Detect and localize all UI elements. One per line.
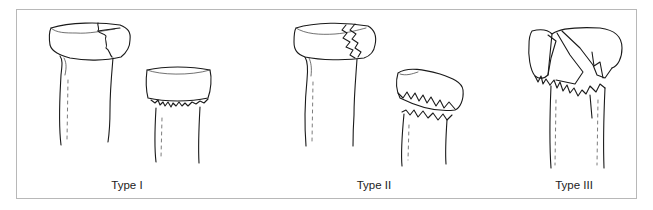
- type-3-fractured-bone: [529, 28, 622, 168]
- type-2-fractured-bone: [397, 69, 463, 166]
- type-2-label: Type II: [357, 179, 392, 191]
- type-1-fractured-bone: [146, 67, 211, 163]
- type-2-intact-bone: [294, 23, 376, 146]
- type-1-label: Type I: [111, 179, 142, 191]
- type-3-label: Type III: [555, 179, 593, 191]
- type-1-intact-bone: [49, 23, 130, 145]
